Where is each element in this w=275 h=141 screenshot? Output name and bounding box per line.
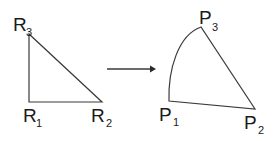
svg-text:P: P — [244, 112, 257, 133]
source-triangle: R 3 R 1 R 2 — [13, 14, 112, 129]
svg-text:3: 3 — [26, 26, 32, 38]
mapping-diagram: R 3 R 1 R 2 P 3 P 1 P 2 — [0, 0, 275, 141]
target-curved-triangle: P 3 P 1 P 2 — [159, 7, 264, 136]
svg-text:3: 3 — [212, 21, 218, 33]
arrow-right-icon — [107, 66, 156, 73]
vertex-label-r1: R 1 — [23, 105, 42, 129]
vertex-label-r2: R 2 — [91, 105, 112, 129]
svg-text:2: 2 — [258, 124, 264, 136]
svg-text:R: R — [23, 105, 37, 126]
vertex-label-p2: P 2 — [244, 112, 264, 136]
svg-text:P: P — [199, 7, 212, 28]
svg-text:1: 1 — [36, 117, 42, 129]
svg-text:1: 1 — [173, 116, 179, 128]
svg-text:R: R — [91, 105, 105, 126]
vertex-label-r3: R 3 — [13, 14, 32, 38]
curved-triangle-shape — [169, 27, 255, 109]
svg-text:R: R — [13, 14, 27, 35]
svg-text:P: P — [159, 104, 172, 125]
vertex-label-p1: P 1 — [159, 104, 179, 128]
svg-text:2: 2 — [106, 117, 112, 129]
triangle-shape — [29, 34, 102, 102]
